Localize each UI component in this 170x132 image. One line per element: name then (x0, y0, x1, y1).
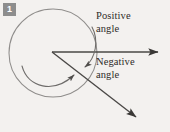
negative-angle-label-line1: Negative (96, 56, 135, 67)
positive-angle-label: Positive angle (96, 10, 131, 35)
negative-angle-label: Negative angle (96, 56, 135, 81)
diagram-canvas (0, 0, 170, 132)
positive-angle-label-line2: angle (96, 23, 131, 36)
negative-angle-arc (22, 66, 74, 86)
angle-diagram-figure: 1 Positive angle Negative angle (0, 0, 170, 132)
negative-angle-label-line2: angle (96, 69, 135, 82)
step-number-badge: 1 (3, 3, 16, 16)
positive-angle-arc (85, 27, 96, 67)
positive-angle-label-line1: Positive (96, 10, 131, 21)
